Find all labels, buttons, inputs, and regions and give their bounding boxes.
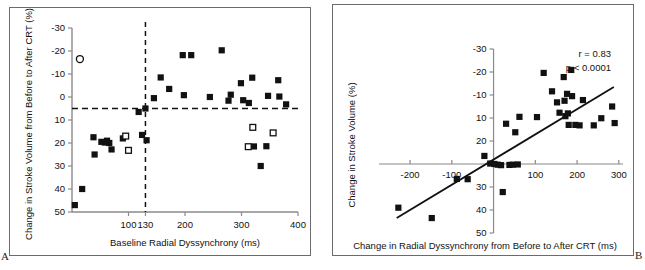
data-point-filled-square-4	[481, 153, 487, 159]
panel-b-plot: 5040302010-10-20-30-200-100100200300r = …	[333, 5, 632, 254]
data-point-filled-square-21	[219, 47, 225, 53]
data-point-filled-square-0	[72, 202, 78, 208]
stat-p-label: p < 0.0001	[566, 62, 611, 73]
data-point-filled-square-13	[143, 137, 149, 143]
data-point-filled-square-16	[166, 86, 172, 92]
data-point-filled-square-2	[454, 176, 460, 182]
data-point-filled-square-28	[569, 93, 575, 99]
data-point-open-square-2	[245, 144, 251, 150]
x-tick-label-a-0: 100	[121, 219, 137, 230]
y-tick-label-a-4: 10	[54, 114, 65, 125]
x-tick-label-b-2: 100	[527, 169, 543, 180]
data-point-open-square-4	[270, 130, 276, 136]
data-point-filled-square-21	[561, 74, 567, 80]
y-tick-label-b-2: 30	[476, 181, 487, 192]
y-axis-title-a: Change in Stroke Volume from Before to A…	[23, 8, 34, 240]
panel-a: 50403020100-10-20-30100130200300400Basel…	[9, 7, 311, 256]
data-point-filled-square-9	[500, 189, 506, 195]
data-point-filled-square-26	[246, 100, 252, 106]
data-point-filled-square-12	[142, 105, 148, 111]
y-tick-label-b-7: -30	[473, 43, 487, 54]
data-point-filled-square-2	[90, 134, 96, 140]
data-point-filled-square-3	[465, 176, 471, 182]
data-point-filled-square-27	[249, 75, 255, 81]
y-tick-label-a-3: 20	[54, 137, 65, 148]
y-axis-title-b: Change in Stroke Volume (%)	[346, 82, 357, 207]
data-point-filled-square-31	[265, 93, 271, 99]
data-point-filled-square-32	[275, 77, 281, 83]
data-point-filled-square-16	[534, 114, 540, 120]
y-tick-label-a-8: -30	[51, 22, 65, 33]
x-tick-label-b-0: -200	[401, 169, 420, 180]
data-point-filled-square-31	[580, 97, 586, 103]
data-point-filled-square-0	[395, 205, 401, 211]
data-point-filled-square-34	[283, 101, 289, 107]
data-point-filled-square-17	[180, 52, 186, 58]
figure-container: 50403020100-10-20-30100130200300400Basel…	[0, 0, 645, 270]
data-point-filled-square-23	[228, 92, 234, 98]
data-point-filled-square-17	[541, 70, 547, 76]
data-point-filled-square-29	[258, 163, 264, 169]
y-tick-label-b-1: 40	[476, 204, 487, 215]
data-point-filled-square-11	[139, 132, 145, 138]
data-point-filled-square-30	[576, 122, 582, 128]
data-point-filled-square-18	[549, 88, 555, 94]
data-point-filled-square-22	[225, 98, 231, 104]
data-point-filled-square-10	[136, 109, 142, 115]
x-tick-label-a-1: 130	[138, 219, 154, 230]
y-tick-label-a-5: 0	[60, 91, 65, 102]
data-point-filled-square-14	[151, 95, 157, 101]
x-tick-label-b-3: 200	[569, 169, 585, 180]
data-point-open-square-1	[126, 147, 132, 153]
x-tick-label-a-3: 300	[234, 219, 250, 230]
data-point-filled-square-19	[188, 52, 194, 58]
y-tick-label-b-5: -10	[473, 89, 487, 100]
data-point-filled-square-25	[565, 110, 571, 116]
x-tick-label-b-4: 300	[611, 169, 627, 180]
x-tick-label-a-4: 400	[290, 219, 306, 230]
data-point-filled-square-30	[263, 143, 269, 149]
data-point-filled-square-35	[612, 120, 618, 126]
data-point-filled-square-14	[515, 161, 521, 167]
data-point-filled-square-13	[512, 129, 518, 135]
x-axis-title-b: Change in Radial Dyssynchrony from Befor…	[353, 240, 617, 251]
data-point-filled-square-10	[503, 121, 509, 127]
x-tick-label-a-2: 200	[177, 219, 193, 230]
y-tick-label-b-6: -20	[473, 66, 487, 77]
panel-b-letter: B	[635, 249, 642, 261]
data-point-filled-square-24	[238, 80, 244, 86]
trendline-b	[397, 87, 614, 218]
y-tick-label-b-3: 20	[476, 135, 487, 146]
y-tick-label-a-7: -20	[51, 45, 65, 56]
y-tick-label-a-6: -10	[51, 68, 65, 79]
panel-a-letter: A	[1, 250, 9, 262]
y-tick-label-b-4: 10	[476, 112, 487, 123]
data-point-filled-square-20	[556, 110, 562, 116]
data-point-filled-square-33	[598, 115, 604, 121]
data-point-filled-square-8	[498, 162, 504, 168]
data-point-filled-square-32	[591, 122, 597, 128]
data-point-filled-square-26	[566, 122, 572, 128]
data-point-filled-square-7	[106, 140, 112, 146]
data-point-filled-square-19	[554, 99, 560, 105]
data-points-a	[72, 47, 290, 208]
data-point-filled-square-34	[609, 103, 615, 109]
y-tick-label-a-1: 40	[54, 183, 65, 194]
data-point-filled-square-3	[92, 151, 98, 157]
data-point-filled-square-25	[240, 97, 246, 103]
data-point-filled-square-20	[207, 94, 213, 100]
y-tick-label-a-2: 30	[54, 160, 65, 171]
panel-a-plot: 50403020100-10-20-30100130200300400Basel…	[10, 8, 309, 254]
data-point-filled-square-18	[181, 92, 187, 98]
data-point-open-circle-0	[76, 56, 83, 63]
data-point-open-square-3	[250, 124, 256, 130]
stat-r-label: r = 0.83	[579, 48, 611, 59]
data-point-filled-square-15	[158, 74, 164, 80]
y-tick-label-a-0: 50	[54, 206, 65, 217]
data-point-filled-square-8	[108, 146, 114, 152]
y-tick-label-b-0: 50	[476, 227, 487, 238]
x-axis-title-a: Baseline Radial Dyssynchrony (ms)	[110, 237, 260, 248]
data-point-filled-square-1	[79, 186, 85, 192]
data-point-filled-square-33	[276, 93, 282, 99]
data-point-filled-square-1	[429, 215, 435, 221]
